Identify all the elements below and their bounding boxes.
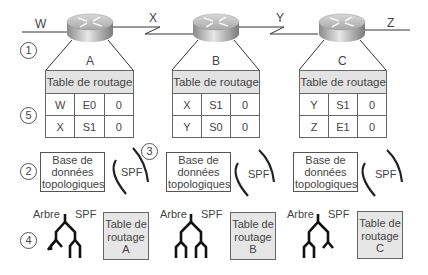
table-row: W E0 0 [46,94,134,116]
routing-table-c: Table de routage Y S1 0 Z E1 0 [299,70,387,138]
routing-table-a: Table de routage W E0 0 X S1 0 [45,70,134,138]
tree-label-arbre-c: Arbre [287,208,314,220]
network-label-z: Z [387,17,394,29]
step-4-marker: 4 [20,232,37,249]
network-label-y: Y [276,12,284,24]
final-routing-table-b: Table de routage B [230,212,276,260]
tree-label-arbre-a: Arbre [33,208,60,220]
network-label-w: W [35,18,46,30]
tree-label-spf-c: SPF [328,208,349,220]
table-row: X S1 0 [46,116,134,138]
step-3-marker: 3 [141,143,158,160]
table-row: Y S1 0 [300,94,387,116]
tree-label-arbre-b: Arbre [160,208,187,220]
router-name-a: A [86,55,94,67]
step-2-marker: 2 [20,163,37,180]
step-5-marker: 5 [20,107,37,124]
spf-tree-b-icon [176,214,206,258]
routing-table-header: Table de routage [46,71,134,94]
router-c-icon [319,14,365,42]
router-b-icon [193,14,239,42]
topology-database-b: Base de données topologiques [166,152,231,192]
network-label-x: X [149,12,157,24]
topology-database-a: Base de données topologiques [40,152,105,192]
routing-table-header: Table de routage [173,71,260,94]
routing-table-b: Table de routage X S1 0 Y S0 0 [172,70,260,138]
link-y [235,27,318,34]
spf-label-b: SPF [248,168,269,180]
spf-tree-c-icon [304,214,333,258]
tree-label-spf-a: SPF [75,208,96,220]
link-x [112,27,195,34]
table-row: Y S0 0 [173,116,260,138]
router-name-c: C [338,55,347,67]
table-row: X S1 0 [173,94,260,116]
router-name-b: B [212,55,220,67]
spf-label-a: SPF [121,166,142,178]
final-routing-table-a: Table de routage A [103,212,149,260]
spf-tree-a-icon [48,214,80,258]
spf-label-c: SPF [375,168,396,180]
table-row: Z E1 0 [300,116,387,138]
tree-label-spf-b: SPF [201,208,222,220]
router-a-icon [67,14,113,42]
final-routing-table-c: Table de routage C [357,211,403,259]
routing-table-header: Table de routage [300,71,387,94]
step-1-marker: 1 [20,42,37,59]
topology-database-c: Base de données topologiques [293,152,358,192]
